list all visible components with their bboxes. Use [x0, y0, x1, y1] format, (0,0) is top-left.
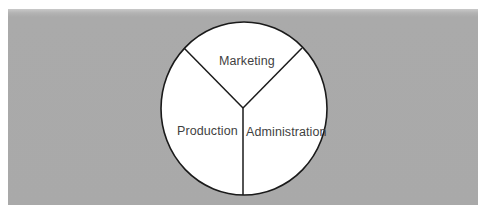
pie-diagram — [0, 0, 488, 216]
sector-label-production: Production — [177, 125, 238, 138]
sector-label-marketing: Marketing — [219, 55, 275, 68]
circle-outline — [161, 22, 327, 195]
sector-label-administration: Administration — [246, 126, 327, 139]
